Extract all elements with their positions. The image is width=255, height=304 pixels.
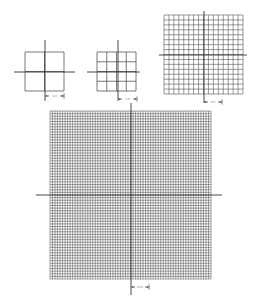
arrowhead-icon xyxy=(135,98,137,100)
scale-marker: 1.0 xyxy=(119,97,138,102)
scale-marker: 0.25 xyxy=(132,285,150,290)
grid-diagram-canvas: 1.01.00.50.25 xyxy=(0,0,255,304)
grid-64x64: 0.25 xyxy=(36,103,222,295)
arrowhead-icon xyxy=(119,98,121,100)
scale-label: 1.0 xyxy=(125,98,129,101)
grid-2x2: 1.0 xyxy=(14,40,75,101)
scale-label: 0.5 xyxy=(211,101,215,104)
grid-4x4: 1.0 xyxy=(87,40,140,102)
scale-label: 1.0 xyxy=(52,95,56,98)
arrowhead-icon xyxy=(62,95,64,97)
arrowhead-icon xyxy=(46,95,48,97)
arrowhead-icon xyxy=(147,286,149,288)
scale-label: 0.25 xyxy=(137,286,143,289)
arrowhead-icon xyxy=(132,286,134,288)
scale-marker: 0.5 xyxy=(205,100,223,105)
arrowhead-icon xyxy=(205,101,207,103)
arrowhead-icon xyxy=(220,101,222,103)
scale-marker: 1.0 xyxy=(46,94,65,99)
grid-16x16: 0.5 xyxy=(159,11,247,105)
